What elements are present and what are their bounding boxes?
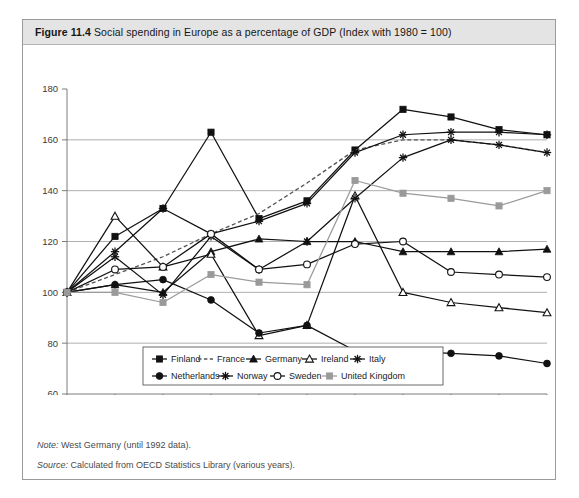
- marker-square: [156, 356, 162, 362]
- marker-triangle-open: [399, 288, 407, 295]
- source-row: Source: Calculated from OECD Statistics …: [37, 460, 541, 471]
- legend-item-sweden[interactable]: Sweden: [270, 371, 322, 381]
- marker-square: [448, 195, 454, 201]
- data-point: [399, 288, 407, 295]
- marker-circle: [156, 373, 163, 380]
- marker-circle-open: [448, 269, 455, 276]
- data-point: [448, 350, 455, 357]
- data-point: [64, 289, 70, 295]
- figure-number: Figure 11.4: [35, 26, 91, 38]
- data-point: [352, 241, 359, 248]
- data-point: [543, 148, 551, 156]
- data-point: [496, 203, 502, 209]
- marker-circle-open: [274, 373, 281, 380]
- data-point: [111, 212, 119, 219]
- legend-label: Norway: [237, 371, 268, 381]
- data-point: [208, 271, 214, 277]
- note-text: West Germany (until 1992 data).: [61, 440, 191, 450]
- legend-label: Netherlands: [171, 371, 220, 381]
- data-point: [448, 195, 454, 201]
- note-label: Note:: [37, 440, 59, 450]
- y-tick-label: 100: [42, 287, 58, 298]
- data-point: [160, 264, 167, 271]
- marker-square: [256, 279, 262, 285]
- marker-square: [160, 299, 166, 305]
- data-point: [111, 253, 119, 261]
- marker-square: [448, 114, 454, 120]
- marker-circle: [256, 330, 263, 337]
- marker-square: [400, 106, 406, 112]
- data-point: [400, 106, 406, 112]
- marker-square: [64, 289, 70, 295]
- data-point: [447, 136, 455, 144]
- chart-region: 6080100120140160180198019851990199520002…: [23, 45, 555, 395]
- data-point: [304, 282, 310, 288]
- series-line: [67, 140, 547, 295]
- marker-circle-open: [352, 241, 359, 248]
- marker-circle-open: [160, 264, 167, 271]
- marker-square: [544, 188, 550, 194]
- series-italy: [63, 128, 551, 297]
- legend-label: Italy: [369, 354, 386, 364]
- data-point: [447, 128, 455, 136]
- data-point: [543, 131, 551, 139]
- marker-circle: [208, 297, 215, 304]
- marker-square: [112, 289, 118, 295]
- data-point: [112, 289, 118, 295]
- data-point: [399, 153, 407, 161]
- source-text: Calculated from OECD Statistics Library …: [71, 460, 296, 470]
- data-point: [112, 281, 119, 288]
- marker-circle: [112, 281, 119, 288]
- data-point: [221, 372, 229, 380]
- data-point: [353, 355, 361, 363]
- data-point: [303, 199, 311, 207]
- data-point: [303, 237, 311, 245]
- data-point: [496, 271, 503, 278]
- legend-item-norway[interactable]: Norway: [218, 371, 268, 381]
- data-point: [544, 188, 550, 194]
- marker-square: [326, 373, 332, 379]
- marker-circle-open: [496, 271, 503, 278]
- data-point: [156, 356, 162, 362]
- data-point: [156, 373, 163, 380]
- legend-label: Ireland: [321, 354, 349, 364]
- marker-triangle-open: [111, 212, 119, 219]
- legend-label: United Kingdom: [341, 371, 405, 381]
- note-row: Note: West Germany (until 1992 data).: [37, 440, 541, 451]
- legend-label: France: [217, 354, 245, 364]
- data-point: [544, 274, 551, 281]
- data-point: [400, 190, 406, 196]
- data-point: [352, 177, 358, 183]
- y-tick-label: 180: [42, 83, 58, 94]
- y-tick-label: 60: [47, 388, 58, 395]
- legend-label: Germany: [265, 354, 303, 364]
- figure-header: Figure 11.4 Social spending in Europe as…: [23, 20, 555, 45]
- legend-label: Sweden: [289, 371, 322, 381]
- data-point: [256, 266, 263, 273]
- figure-caption-text: Social spending in Europe as a percentag…: [94, 26, 452, 38]
- notes-block: Note: West Germany (until 1992 data). So…: [23, 431, 555, 479]
- data-point: [326, 373, 332, 379]
- data-point: [256, 279, 262, 285]
- marker-circle: [496, 352, 503, 359]
- data-point: [448, 269, 455, 276]
- series-norway: [63, 136, 551, 299]
- marker-circle: [448, 350, 455, 357]
- data-point: [160, 276, 167, 283]
- data-point: [112, 266, 119, 273]
- data-point: [208, 297, 215, 304]
- marker-circle-open: [112, 266, 119, 273]
- marker-circle-open: [256, 266, 263, 273]
- data-point: [399, 131, 407, 139]
- data-point: [544, 360, 551, 367]
- marker-square: [112, 233, 118, 239]
- marker-circle: [160, 276, 167, 283]
- legend-label: Finland: [171, 354, 201, 364]
- source-label: Source:: [37, 460, 68, 470]
- data-point: [448, 114, 454, 120]
- figure-caption: Figure 11.4 Social spending in Europe as…: [35, 26, 452, 38]
- marker-square: [400, 190, 406, 196]
- data-point: [256, 330, 263, 337]
- line-chart: 6080100120140160180198019851990199520002…: [23, 45, 555, 395]
- data-point: [304, 261, 311, 268]
